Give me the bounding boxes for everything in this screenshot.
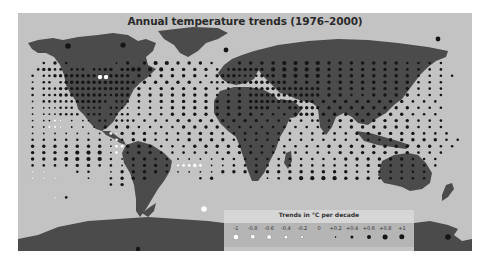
warming-dot-icon: [65, 93, 68, 96]
warming-dot-icon: [350, 61, 353, 64]
north-america: [28, 33, 156, 131]
cooling-dot-icon: [98, 75, 102, 79]
warming-dot-icon: [361, 68, 364, 71]
warming-dot-icon: [171, 100, 174, 103]
warming-dot-icon: [434, 113, 437, 116]
warming-dot-icon: [138, 113, 141, 116]
warming-dot-icon: [87, 107, 90, 110]
warming-dot-icon: [48, 75, 51, 78]
warming-dot-icon: [327, 61, 330, 64]
warming-dot-icon: [277, 164, 280, 167]
warming-dot-icon: [317, 119, 320, 122]
warming-dot-icon: [277, 170, 280, 173]
warming-dot-icon: [328, 119, 331, 122]
warming-dot-icon: [395, 68, 398, 71]
warming-dot-icon: [70, 81, 73, 84]
warming-dot-icon: [428, 87, 431, 90]
cooling-dot-icon: [54, 126, 57, 129]
warming-dot-icon: [345, 139, 348, 142]
warming-dot-icon: [76, 81, 79, 84]
cooling-dot-icon: [54, 119, 57, 122]
warming-dot-icon: [210, 138, 213, 141]
warming-dot-icon: [177, 139, 180, 142]
warming-dot-icon: [48, 100, 51, 103]
warming-dot-icon: [272, 151, 275, 154]
warming-dot-icon: [65, 87, 68, 90]
warming-dot-icon: [221, 170, 224, 173]
warming-dot-icon: [59, 113, 62, 116]
warming-dot-icon: [395, 61, 398, 64]
warming-dot-icon: [317, 151, 320, 154]
warming-dot-icon: [372, 106, 375, 109]
warming-dot-icon: [43, 94, 46, 97]
warming-dot-icon: [417, 126, 420, 129]
warming-dot-icon: [233, 132, 236, 135]
warming-dot-icon: [299, 113, 302, 116]
warming-dot-icon: [154, 81, 157, 84]
warming-dot-icon: [372, 61, 375, 64]
warming-dot-icon: [322, 132, 325, 135]
warming-dot-icon: [188, 171, 190, 173]
warming-dot-icon: [255, 75, 258, 78]
warming-dot-icon: [249, 61, 252, 64]
warming-dot-icon: [137, 87, 140, 90]
warming-dot-icon: [428, 126, 431, 129]
warming-dot-icon: [261, 151, 264, 154]
cooling-dot-icon: [32, 177, 34, 179]
warming-dot-icon: [395, 93, 398, 96]
warming-dot-icon: [232, 170, 235, 173]
warming-dot-icon: [451, 75, 454, 78]
warming-dot-icon: [76, 100, 79, 103]
warming-dot-icon: [81, 93, 84, 96]
warming-dot-icon: [383, 81, 386, 84]
warming-dot-icon: [243, 81, 246, 84]
warming-dot-icon: [48, 94, 51, 97]
warming-dot-icon: [389, 100, 392, 103]
legend-item-label: -0.2: [294, 225, 310, 232]
warming-dot-icon: [294, 151, 297, 154]
warming-dot-icon: [266, 119, 269, 122]
warming-dot-icon: [110, 177, 113, 180]
warming-dot-icon: [440, 119, 443, 122]
warming-dot-icon: [406, 106, 409, 109]
warming-dot-icon: [238, 87, 241, 90]
warming-dot-icon: [59, 93, 62, 96]
warming-dot-icon: [289, 158, 292, 161]
cooling-dot-icon: [267, 235, 271, 239]
warming-dot-icon: [299, 87, 302, 90]
warming-dot-icon: [110, 113, 113, 116]
warming-dot-icon: [43, 81, 46, 84]
warming-dot-icon: [126, 87, 129, 90]
warming-dot-icon: [121, 119, 124, 122]
warming-dot-icon: [143, 177, 146, 180]
warming-dot-icon: [305, 74, 309, 78]
warming-dot-icon: [378, 171, 381, 174]
warming-dot-icon: [367, 171, 370, 174]
warming-dot-icon: [127, 107, 129, 109]
warming-dot-icon: [65, 100, 68, 103]
warming-dot-icon: [98, 81, 101, 84]
warming-dot-icon: [109, 87, 112, 90]
warming-dot-icon: [160, 113, 163, 116]
warming-dot-icon: [216, 125, 219, 128]
warming-dot-icon: [70, 113, 73, 116]
warming-dot-icon: [143, 61, 146, 64]
warming-dot-icon: [395, 151, 398, 154]
warming-dot-icon: [316, 87, 319, 90]
south-america: [122, 141, 172, 217]
warming-dot-icon: [243, 68, 246, 71]
warming-dot-icon: [406, 145, 409, 148]
warming-dot-icon: [440, 94, 443, 97]
warming-dot-icon: [249, 145, 252, 148]
warming-dot-icon: [199, 119, 202, 122]
warming-dot-icon: [445, 234, 451, 240]
warming-dot-icon: [293, 61, 297, 65]
warming-dot-icon: [316, 67, 320, 71]
warming-dot-icon: [216, 87, 219, 90]
warming-dot-icon: [154, 170, 157, 173]
warming-dot-icon: [182, 74, 185, 77]
warming-dot-icon: [417, 119, 420, 122]
warming-dot-icon: [53, 74, 56, 77]
warming-dot-icon: [311, 106, 314, 109]
warming-dot-icon: [43, 120, 45, 122]
